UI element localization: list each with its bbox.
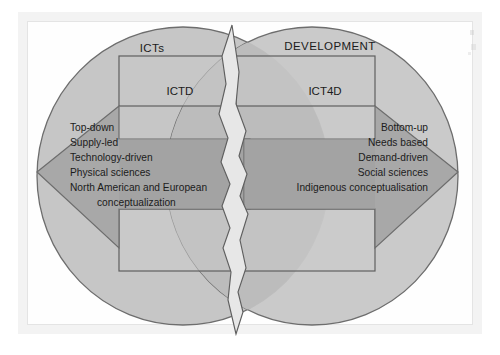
ict4d-box-label: ICT4D [308, 85, 341, 97]
left-arrow-item: Supply-led [70, 137, 118, 148]
diagram-canvas: ICTs DEVELOPMENT ICTD ICT4D Top-down Sup… [0, 0, 500, 355]
ictd-box [119, 56, 236, 106]
left-arrow-item: Physical sciences [70, 167, 150, 178]
ictd-box-label: ICTD [167, 85, 194, 97]
right-arrow-item: Indigenous conceptualisation [297, 182, 428, 193]
left-arrow-item: Top-down [70, 122, 114, 133]
left-circle-label: ICTs [140, 42, 165, 54]
left-arrow-item: Technology-driven [70, 152, 153, 163]
right-arrow-item: Social sciences [358, 167, 428, 178]
left-arrow-item: conceptualization [97, 197, 176, 208]
left-arrow-item: North American and European [70, 182, 207, 193]
right-arrow-item: Demand-driven [358, 152, 428, 163]
ict4d-box [236, 56, 375, 106]
figure-container: ICTs DEVELOPMENT ICTD ICT4D Top-down Sup… [0, 0, 500, 355]
right-arrow-item: Needs based [368, 137, 428, 148]
right-circle-label: DEVELOPMENT [284, 40, 375, 52]
right-arrow-band [244, 139, 375, 209]
right-arrow-item: Bottom-up [381, 122, 428, 133]
